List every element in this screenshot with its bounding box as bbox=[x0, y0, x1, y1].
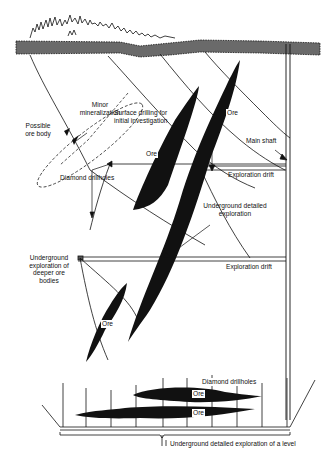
exploration-drift-lower bbox=[78, 256, 286, 261]
level-exploration-label: Underground detailed exploration of a le… bbox=[170, 440, 296, 448]
label-line: Possible bbox=[18, 122, 58, 130]
label-line: Minor bbox=[72, 101, 128, 109]
label-line: Surface drilling for bbox=[114, 109, 168, 117]
surface-vegetation bbox=[30, 15, 175, 38]
mining-exploration-diagram bbox=[0, 0, 331, 454]
surface-drilling-label: Surface drilling for initial investigati… bbox=[114, 109, 168, 124]
possible-ore-body-label: Possible ore body bbox=[18, 122, 58, 137]
ore-label-upper-right: Ore bbox=[226, 109, 239, 117]
label-line: ore body bbox=[18, 130, 58, 138]
level-ore-bodies bbox=[75, 387, 262, 418]
exploration-drift-label-upper: Exploration drift bbox=[228, 171, 274, 179]
exploration-drift-label-lower: Exploration drift bbox=[226, 263, 272, 271]
main-shaft bbox=[286, 44, 290, 420]
label-line: initial investigation bbox=[114, 117, 168, 125]
label-line: Underground detailed bbox=[200, 202, 270, 210]
label-line: exploration bbox=[200, 210, 270, 218]
diamond-drillholes-label: Diamond drillholes bbox=[60, 174, 114, 182]
main-shaft-label: Main shaft bbox=[246, 137, 276, 145]
label-line: exploration of bbox=[24, 262, 74, 270]
ore-label-lower: Ore bbox=[101, 320, 114, 328]
ground-surface-band bbox=[16, 40, 320, 57]
ore-label-level-top: Ore bbox=[192, 390, 205, 398]
deeper-ore-bodies-label: Underground exploration of deeper ore bo… bbox=[24, 254, 74, 284]
underground-detailed-exploration-label: Underground detailed exploration bbox=[200, 202, 270, 217]
ore-label-level-bottom: Ore bbox=[192, 409, 205, 417]
diamond-drillholes-level-label: Diamond drillholes bbox=[201, 378, 257, 386]
ore-label-upper-left: Ore bbox=[145, 150, 158, 158]
label-line: bodies bbox=[24, 277, 74, 285]
label-line: deeper ore bbox=[24, 269, 74, 277]
label-line: Underground bbox=[24, 254, 74, 262]
